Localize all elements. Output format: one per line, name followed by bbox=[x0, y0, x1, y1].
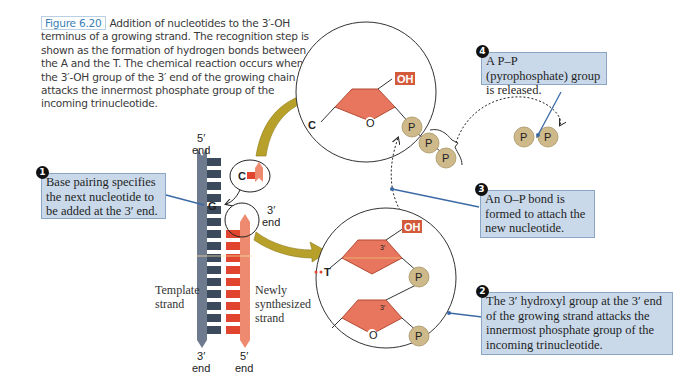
phosphate-label: P bbox=[415, 271, 422, 283]
step-1-badge: 1 bbox=[36, 166, 49, 179]
callout-3: An O–P bond is formed to attach the new … bbox=[480, 190, 595, 238]
base-t-label: T bbox=[324, 266, 331, 278]
template-5prime-end: 5′ end bbox=[192, 132, 210, 156]
base-g-label: G bbox=[208, 200, 217, 212]
phosphate-label: P bbox=[425, 137, 432, 149]
arrow-to-bottom-circle-icon bbox=[254, 232, 328, 262]
phosphate-label: P bbox=[408, 121, 415, 133]
three-prime-label: 3′ bbox=[380, 302, 385, 314]
callout-2: The 3′ hydroxyl group at the 3′ end of t… bbox=[481, 292, 673, 355]
phosphate-label: P bbox=[415, 330, 422, 342]
step-2-badge: 2 bbox=[476, 285, 489, 298]
oh-label-bottom: OH bbox=[404, 221, 421, 233]
new-3prime-end: 3′ end bbox=[262, 204, 280, 228]
bottom-circle-zoom bbox=[315, 208, 457, 348]
three-prime-label: 3′ bbox=[380, 242, 385, 254]
ring-oxygen-label: O bbox=[369, 329, 378, 341]
phosphate-label: P bbox=[442, 152, 449, 164]
new-5prime-end: 5′ end bbox=[235, 350, 253, 374]
incoming-c-nucleotide bbox=[226, 160, 270, 204]
new-strand-label: Newly synthesized strand bbox=[255, 283, 311, 325]
callout-1: Base pairing specifies the next nucleoti… bbox=[41, 173, 166, 219]
step-4-badge: 4 bbox=[476, 45, 489, 58]
callout-4: A P–P (pyrophosphate) group is released. bbox=[481, 52, 607, 85]
pp-label: P bbox=[520, 131, 527, 143]
pp-label: P bbox=[544, 131, 551, 143]
ring-oxygen-label: O bbox=[366, 117, 375, 129]
template-3prime-end: 3′ end bbox=[192, 350, 210, 374]
step-3-badge: 3 bbox=[475, 183, 488, 196]
incoming-c-label: C bbox=[238, 170, 246, 182]
template-strand-label: Template strand bbox=[155, 283, 199, 311]
base-c-label: C bbox=[308, 119, 316, 131]
template-strand bbox=[197, 148, 221, 348]
oh-label-top: OH bbox=[397, 73, 414, 85]
